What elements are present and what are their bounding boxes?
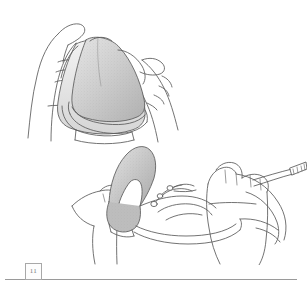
right-forearm-right	[259, 192, 268, 265]
page-number-text: 11	[26, 264, 41, 279]
insert-edge-right	[132, 230, 134, 236]
left-wrist-under	[72, 206, 94, 226]
lace-loop-lower	[174, 190, 196, 192]
lace-eyelet-2	[157, 194, 163, 199]
shoe-heel-edge	[240, 219, 242, 230]
shoe-quarter-line	[166, 214, 202, 220]
lace-eyelet-1	[151, 201, 157, 206]
lace-knot	[167, 186, 173, 191]
shoe-tongue-line	[158, 204, 212, 215]
illustration-hands-holding-cushion	[18, 10, 188, 150]
right-forearm-left	[207, 184, 220, 264]
right-knuckle-sep-2	[236, 173, 237, 185]
insert-cushion-texture	[109, 147, 156, 210]
footer-rule	[5, 279, 297, 280]
right-finger-3	[154, 95, 164, 104]
shoe-sole-bottom	[134, 230, 240, 244]
left-forearm-outer-line	[28, 34, 58, 138]
page-number-box: 11	[25, 263, 42, 280]
right-hand-knuckle-line	[208, 167, 236, 184]
cushion-body-texture	[72, 37, 145, 121]
lace-loop-upper	[174, 184, 194, 187]
right-hand-grip-crease	[209, 203, 256, 205]
right-finger-1	[162, 76, 172, 87]
document-page: 11	[0, 0, 307, 293]
right-knuckle-sep-1	[225, 170, 226, 183]
shoe-heel-collar-inner	[246, 192, 279, 244]
left-forearm-lower-a	[93, 226, 95, 264]
shoe-sole-top	[136, 224, 236, 236]
right-hand-top-outline	[216, 162, 242, 178]
insert-base-edge	[111, 232, 134, 237]
illustration-inserting-cushion-into-shoe	[70, 140, 307, 265]
shoe-heel-seam	[256, 228, 280, 242]
right-knuckle-sep-3	[250, 175, 251, 187]
left-finger-sep-1	[103, 194, 105, 202]
shell-corner-right	[132, 132, 134, 140]
shell-corner-left	[75, 130, 76, 140]
